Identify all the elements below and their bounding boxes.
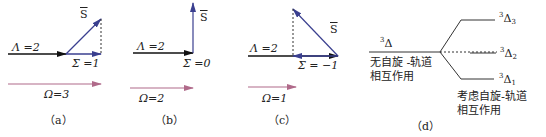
panel-caption-b: （b）: [155, 115, 184, 126]
panel-caption-a: （a）: [44, 115, 73, 126]
panel-caption-c: （c）: [268, 115, 296, 126]
lambda-label: Λ =2: [250, 43, 278, 54]
lambda-label: Λ =2: [137, 41, 165, 52]
spin-label: S: [330, 24, 338, 35]
term-delta2: 3Δ2: [500, 47, 517, 61]
omega-label: Ω=1: [262, 93, 287, 104]
term-delta3: 3Δ3: [499, 12, 516, 26]
omega-label: Ω=2: [139, 93, 164, 104]
unperturbed-term: 3Δ: [380, 37, 392, 49]
term-delta1: 3Δ1: [499, 73, 516, 87]
sigma-label: Σ =0: [183, 58, 211, 69]
no-spin-orbit-note: 无自旋 -轨道 相互作用: [370, 56, 432, 84]
connector-lower: [440, 52, 461, 79]
omega-label: Ω=3: [44, 89, 69, 100]
connector-upper: [440, 20, 461, 52]
sigma-label: Σ =1: [72, 58, 100, 69]
lambda-label: Λ =2: [12, 42, 40, 53]
with-spin-orbit-note: 考虑自旋-轨道 相互作用: [457, 90, 527, 118]
spin-label: S: [80, 9, 88, 20]
spin-label: S: [200, 12, 208, 23]
sigma-label: Σ = −1: [298, 60, 338, 71]
panel-caption-d: （d）: [411, 121, 440, 132]
spin-vector: [66, 19, 101, 54]
